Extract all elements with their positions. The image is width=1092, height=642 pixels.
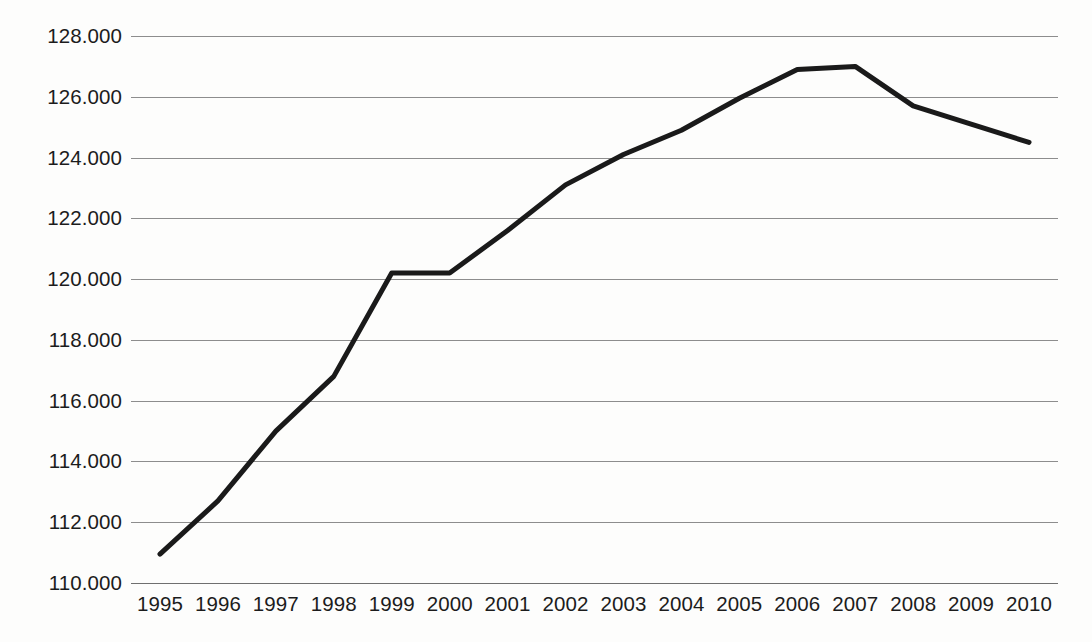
y-axis-tick-label: 128.000 — [0, 24, 122, 48]
y-axis-tick-label: 116.000 — [0, 389, 122, 413]
x-axis-tick-label: 2005 — [716, 592, 762, 616]
y-axis: 110.000112.000114.000116.000118.000120.0… — [0, 0, 122, 642]
y-axis-tick-label: 118.000 — [0, 328, 122, 352]
data-series-line — [160, 66, 1029, 554]
y-axis-tick-label: 124.000 — [0, 146, 122, 170]
y-axis-tick-label: 122.000 — [0, 206, 122, 230]
x-axis-tick-label: 2009 — [948, 592, 994, 616]
x-axis-tick-label: 1999 — [369, 592, 415, 616]
line-chart: 110.000112.000114.000116.000118.000120.0… — [0, 0, 1092, 642]
x-axis-tick-label: 2007 — [832, 592, 878, 616]
x-axis-tick-label: 2000 — [427, 592, 473, 616]
y-axis-tick-label: 114.000 — [0, 449, 122, 473]
series-line — [123, 0, 1066, 623]
x-axis-tick-label: 1998 — [311, 592, 357, 616]
x-axis-tick-label: 1995 — [137, 592, 183, 616]
x-axis-tick-label: 2010 — [1006, 592, 1052, 616]
plot-area — [131, 36, 1058, 583]
x-axis-tick-label: 2006 — [774, 592, 820, 616]
x-axis-tick-label: 2003 — [600, 592, 646, 616]
x-axis-tick-label: 2004 — [658, 592, 704, 616]
y-axis-tick-label: 112.000 — [0, 510, 122, 534]
x-axis-tick-label: 2008 — [890, 592, 936, 616]
x-axis-tick-label: 2001 — [485, 592, 531, 616]
x-axis-tick-label: 1997 — [253, 592, 299, 616]
y-axis-tick-label: 126.000 — [0, 85, 122, 109]
x-axis-tick-label: 2002 — [543, 592, 589, 616]
x-axis: 1995199619971998199920002001200220032004… — [0, 592, 1092, 632]
x-axis-tick-label: 1996 — [195, 592, 241, 616]
y-axis-tick-label: 120.000 — [0, 267, 122, 291]
